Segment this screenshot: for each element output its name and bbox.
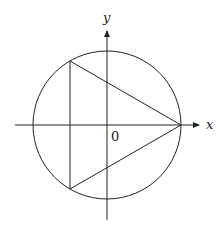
y-axis-label: y (102, 10, 111, 25)
x-axis-label: x (206, 117, 214, 132)
diagram-canvas: x y 0 (0, 0, 223, 230)
origin-label: 0 (111, 129, 119, 144)
